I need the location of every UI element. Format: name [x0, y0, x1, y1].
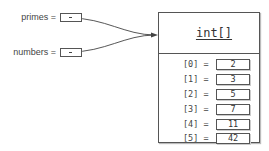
array-element-row: [5] = 42 [159, 133, 259, 144]
reference-dot [69, 52, 72, 53]
variable-label-primes: primes = [0, 12, 56, 22]
arrowhead-icon [151, 33, 158, 38]
primes-reference-arrow [70, 18, 155, 35]
array-element-row: [0] = 2 [159, 59, 259, 70]
array-object: int[] [0] = 2 [1] = 3 [2] = 5 [3] = 7 [4… [158, 12, 260, 143]
element-index: [1] = [183, 74, 209, 85]
element-value: 3 [216, 74, 250, 85]
array-type-header: int[] [159, 13, 259, 54]
reference-dot [69, 17, 72, 18]
element-index: [3] = [183, 104, 209, 115]
element-index: [5] = [183, 133, 209, 144]
variable-label-numbers: numbers = [0, 47, 56, 57]
element-value: 2 [216, 59, 250, 70]
array-type-name: int[] [196, 26, 232, 40]
array-element-row: [1] = 3 [159, 74, 259, 85]
reference-box-primes [60, 13, 82, 22]
element-index: [2] = [183, 89, 209, 100]
element-value: 42 [216, 133, 250, 144]
reference-box-numbers [60, 48, 82, 57]
element-index: [4] = [183, 119, 209, 130]
element-value: 5 [216, 89, 250, 100]
array-element-row: [2] = 5 [159, 89, 259, 100]
array-element-row: [4] = 11 [159, 119, 259, 130]
numbers-reference-arrow [70, 35, 155, 52]
element-value: 7 [216, 104, 250, 115]
element-value: 11 [216, 119, 250, 130]
element-index: [0] = [183, 59, 209, 70]
array-element-row: [3] = 7 [159, 104, 259, 115]
